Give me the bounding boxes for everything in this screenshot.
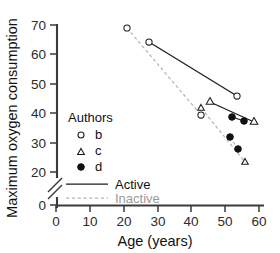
x-axis-ticks: 0 10 20 30 40 50 60 bbox=[52, 205, 266, 229]
datapoint-d-active-1 bbox=[229, 114, 236, 121]
datapoint-c-inactive-1 bbox=[198, 104, 205, 110]
x-ticklabel-20: 20 bbox=[116, 214, 131, 229]
y-ticklabel-20: 20 bbox=[31, 165, 46, 180]
legend-marker-filled-circle-icon bbox=[78, 164, 85, 171]
x-ticklabel-50: 50 bbox=[217, 214, 232, 229]
y-axis-ticks: 70 60 50 40 30 20 0 bbox=[31, 18, 57, 213]
chart-figure: 70 60 50 40 30 20 0 0 10 20 30 40 50 60 … bbox=[0, 0, 280, 253]
x-ticklabel-30: 30 bbox=[150, 214, 165, 229]
y-ticklabel-50: 50 bbox=[31, 77, 46, 92]
series-b-inactive bbox=[124, 25, 204, 118]
legend-label-active: Active bbox=[115, 177, 150, 192]
datapoint-d-inactive-2 bbox=[235, 146, 242, 153]
series-b-active bbox=[146, 39, 240, 99]
series-d-inactive bbox=[227, 134, 242, 153]
legend-label-inactive: Inactive bbox=[115, 191, 160, 206]
scatter-plot-svg: 70 60 50 40 30 20 0 0 10 20 30 40 50 60 … bbox=[0, 0, 280, 253]
legend-title: Authors bbox=[68, 110, 113, 125]
legend-marker-open-circle-icon bbox=[78, 132, 84, 138]
y-ticklabel-60: 60 bbox=[31, 47, 46, 62]
series-line-b-inactive bbox=[127, 28, 201, 115]
x-ticklabel-60: 60 bbox=[251, 214, 266, 229]
datapoint-b-inactive-2 bbox=[198, 112, 204, 118]
datapoint-c-active-1 bbox=[206, 98, 214, 105]
legend-label-d: d bbox=[95, 159, 102, 174]
x-ticklabel-0: 0 bbox=[52, 214, 60, 229]
legend: Authors b c d Active Inactive bbox=[66, 110, 160, 206]
x-ticklabel-40: 40 bbox=[183, 214, 198, 229]
y-ticklabel-0: 0 bbox=[38, 198, 46, 213]
y-axis-break-mark-upper bbox=[48, 185, 62, 199]
x-axis-label: Age (years) bbox=[118, 233, 193, 249]
datapoint-b-inactive-1 bbox=[124, 25, 130, 31]
legend-label-c: c bbox=[95, 143, 102, 158]
datapoint-b-active-2 bbox=[234, 93, 240, 99]
legend-marker-open-triangle-icon bbox=[78, 148, 85, 154]
datapoint-b-active-1 bbox=[146, 39, 152, 45]
y-ticklabel-70: 70 bbox=[31, 18, 46, 33]
datapoint-d-inactive-1 bbox=[227, 134, 234, 141]
y-axis-label: Maximum oxygen consumption bbox=[4, 18, 20, 218]
y-axis-break-mark-lower bbox=[48, 178, 62, 192]
x-ticklabel-10: 10 bbox=[82, 214, 97, 229]
series-c-inactive bbox=[198, 104, 249, 164]
series-line-c-inactive bbox=[201, 108, 245, 162]
y-ticklabel-40: 40 bbox=[31, 106, 46, 121]
datapoint-d-active-2 bbox=[241, 118, 248, 125]
legend-label-b: b bbox=[95, 127, 102, 142]
y-ticklabel-30: 30 bbox=[31, 136, 46, 151]
